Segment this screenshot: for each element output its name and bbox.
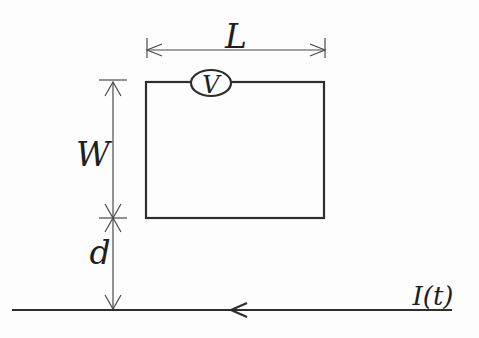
label-V: V [202,71,222,99]
figure-canvas: L V W d I(t) [0,0,479,338]
dimension-W: W [76,80,127,218]
voltmeter: V [191,70,231,99]
dimension-L: L [147,17,325,58]
conducting-loop [146,82,324,218]
physics-diagram: L V W d I(t) [0,0,479,338]
label-L: L [224,17,247,56]
label-d: d [89,233,110,272]
label-I-t: I(t) [411,281,453,311]
dimension-d: d [89,218,127,309]
label-W: W [76,135,113,174]
current-wire: I(t) [12,281,454,317]
